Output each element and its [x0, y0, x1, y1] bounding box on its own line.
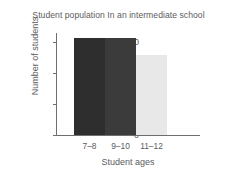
bar [105, 38, 136, 135]
y-axis-title: Number of students [30, 0, 40, 116]
bar [74, 38, 105, 135]
x-axis-title: Student ages [56, 157, 200, 167]
bar-chart-figure: Student population In an intermediate sc… [0, 0, 237, 179]
x-tick-label: 9–10 [111, 141, 130, 151]
plot-area: 0204060 Number of students 7–89–1011–12 … [56, 33, 200, 136]
bar [136, 55, 167, 135]
x-tick-label: 7–8 [83, 141, 97, 151]
y-tick-mark [53, 104, 56, 105]
y-tick-mark [53, 135, 56, 136]
x-tick-label: 11–12 [140, 141, 163, 151]
bars-group [57, 33, 200, 135]
y-tick-mark [53, 42, 56, 43]
y-tick-mark [53, 73, 56, 74]
